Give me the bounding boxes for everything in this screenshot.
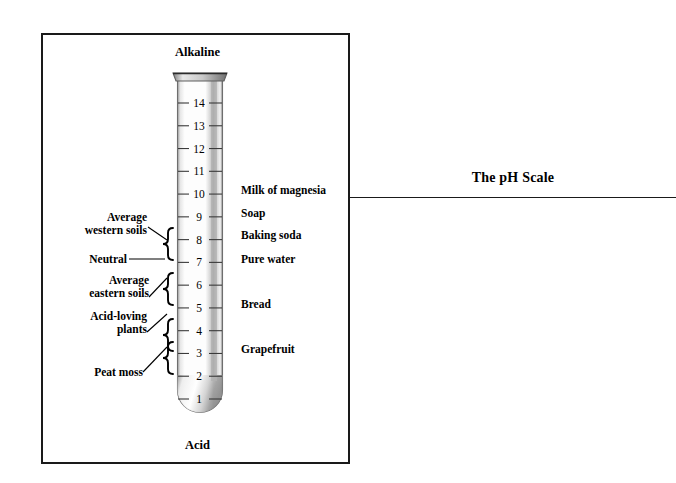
substance-labels: Milk of magnesia Soap Baking soda Pure w… xyxy=(241,184,326,356)
test-tube-diagram: 1413121110987654321 Average western soil… xyxy=(43,35,352,466)
leader-peat-moss xyxy=(143,347,167,372)
leader-average-western-soils xyxy=(148,227,167,240)
ph-scale-figure: Alkaline xyxy=(41,33,350,464)
substance-label-grapefruit: Grapefruit xyxy=(241,343,295,356)
ph-tick-label-7: 7 xyxy=(196,256,202,268)
acid-label: Acid xyxy=(43,438,352,453)
brace-peat-moss xyxy=(163,342,173,374)
annotation-acid-loving-plants-line1: Acid-loving xyxy=(90,310,147,323)
annotation-average-western-soils-line2: western soils xyxy=(85,224,148,236)
ph-tick-label-9: 9 xyxy=(196,211,202,223)
ph-tick-label-10: 10 xyxy=(193,188,205,200)
annotation-peat-moss: Peat moss xyxy=(94,366,143,378)
caption-rule xyxy=(350,197,676,198)
ph-tick-label-1: 1 xyxy=(196,393,202,405)
annotation-average-western-soils-line1: Average xyxy=(107,211,147,224)
brace-average-western-soils xyxy=(163,228,173,260)
annotation-labels: Average western soils Neutral Average ea… xyxy=(85,211,150,378)
caption-block: The pH Scale xyxy=(350,160,676,200)
ph-tick-label-4: 4 xyxy=(196,325,202,337)
ph-tick-label-12: 12 xyxy=(193,143,205,155)
substance-label-pure-water: Pure water xyxy=(241,253,295,265)
ph-tick-label-13: 13 xyxy=(193,120,205,132)
annotation-acid-loving-plants-line2: plants xyxy=(117,323,148,336)
tube-rim xyxy=(173,73,227,81)
ph-tick-label-11: 11 xyxy=(193,165,204,177)
ph-tick-label-14: 14 xyxy=(193,97,205,109)
ph-tick-label-6: 6 xyxy=(196,279,202,291)
ph-tick-label-8: 8 xyxy=(196,234,202,246)
leader-average-eastern-soils xyxy=(149,278,167,297)
annotation-braces xyxy=(129,227,173,374)
substance-label-bread: Bread xyxy=(241,298,271,310)
ph-tick-label-3: 3 xyxy=(196,347,202,359)
caption-title: The pH Scale xyxy=(350,170,676,186)
substance-label-milk-of-magnesia: Milk of magnesia xyxy=(241,184,326,197)
brace-average-eastern-soils xyxy=(163,273,173,305)
annotation-average-eastern-soils-line2: eastern soils xyxy=(89,287,149,299)
annotation-average-eastern-soils-line1: Average xyxy=(109,274,149,287)
leader-acid-loving-plants xyxy=(147,314,167,332)
substance-label-baking-soda: Baking soda xyxy=(241,229,302,242)
ph-tick-label-5: 5 xyxy=(196,302,202,314)
ph-tick-label-2: 2 xyxy=(196,370,202,382)
substance-label-soap: Soap xyxy=(241,207,265,220)
annotation-neutral: Neutral xyxy=(89,253,127,265)
